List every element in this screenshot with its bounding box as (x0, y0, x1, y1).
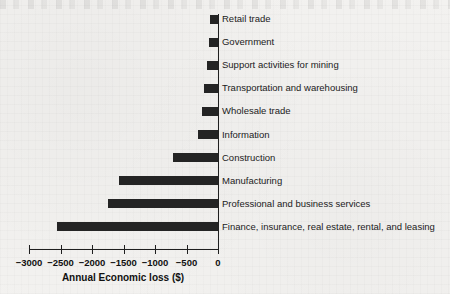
bar (119, 176, 218, 185)
x-axis-tick-mark (29, 245, 30, 254)
bar (209, 38, 218, 47)
zero-value-axis-line (218, 14, 219, 247)
x-axis-tick-label: −1500 (110, 257, 137, 268)
x-axis-tick-mark (187, 245, 188, 254)
x-axis-tick-label: −1000 (142, 257, 169, 268)
bar-category-label: Wholesale trade (222, 106, 291, 116)
bar-row: Manufacturing (119, 176, 218, 185)
x-axis-tick-mark (155, 245, 156, 254)
bar (173, 153, 218, 162)
bar (57, 222, 218, 231)
bar-chart: Retail tradeGovernmentSupport activities… (0, 0, 450, 294)
bar-category-label: Information (222, 130, 270, 140)
bar (207, 61, 218, 70)
bar-category-label: Support activities for mining (222, 60, 339, 70)
bar-category-label: Transportation and warehousing (222, 83, 358, 93)
bar-row: Transportation and warehousing (204, 84, 218, 93)
bar-row: Finance, insurance, real estate, rental,… (57, 222, 218, 231)
x-axis-tick-label: −2000 (79, 257, 106, 268)
bar-row: Support activities for mining (207, 61, 218, 70)
x-axis-tick-label: 0 (215, 257, 220, 268)
x-axis-tick-mark (92, 245, 93, 254)
bar-row: Retail trade (210, 15, 218, 24)
x-axis-tick-mark (124, 245, 125, 254)
bar-row: Construction (173, 153, 218, 162)
bar-category-label: Professional and business services (222, 199, 370, 209)
bar (198, 130, 218, 139)
plot-area: Retail tradeGovernmentSupport activities… (0, 0, 450, 294)
bar (204, 84, 218, 93)
bar-row: Government (209, 38, 218, 47)
bar-category-label: Retail trade (222, 14, 271, 24)
x-axis-title: Annual Economic loss ($) (62, 272, 184, 283)
bar-category-label: Manufacturing (222, 176, 282, 186)
x-axis-tick-label: −500 (176, 257, 197, 268)
bar-row: Wholesale trade (202, 107, 218, 116)
x-axis-tick-mark (218, 245, 219, 254)
x-axis-tick-mark (61, 245, 62, 254)
x-axis-tick-label: −3000 (16, 257, 43, 268)
bar-category-label: Government (222, 37, 274, 47)
bar (210, 15, 218, 24)
bar-category-label: Construction (222, 153, 275, 163)
bar-category-label: Finance, insurance, real estate, rental,… (222, 222, 435, 232)
bar (108, 199, 218, 208)
bar-row: Information (198, 130, 218, 139)
bar (202, 107, 218, 116)
bar-row: Professional and business services (108, 199, 218, 208)
x-axis-tick-label: −2500 (47, 257, 74, 268)
